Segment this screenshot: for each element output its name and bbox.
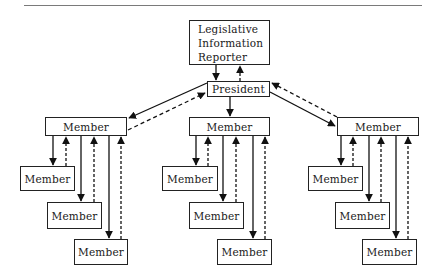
node-left-child-3: Member xyxy=(74,239,128,265)
node-label: Member xyxy=(366,245,412,259)
node-left-child-1: Member xyxy=(20,166,75,191)
node-label: Member xyxy=(24,172,70,186)
edge-right-member-to-president xyxy=(272,83,337,117)
node-label: Member xyxy=(63,120,109,134)
node-left-member: Member xyxy=(45,117,127,136)
node-right-member: Member xyxy=(337,117,419,136)
node-label: Member xyxy=(193,209,239,223)
node-right-child-1: Member xyxy=(308,166,363,191)
node-center-child-1: Member xyxy=(162,166,218,191)
edge-president-to-left-member xyxy=(129,83,207,118)
node-label: Member xyxy=(355,120,401,134)
node-president: President xyxy=(207,81,270,97)
node-label: Member xyxy=(221,245,267,259)
node-center-child-2: Member xyxy=(189,202,244,229)
node-left-child-2: Member xyxy=(47,202,102,229)
node-right-child-2: Member xyxy=(335,202,390,229)
diagram-canvas: Legislative Information Reporter Preside… xyxy=(0,0,438,278)
node-label: Member xyxy=(206,120,252,134)
node-label: Member xyxy=(312,172,358,186)
node-label: Member xyxy=(51,209,97,223)
node-center-child-3: Member xyxy=(217,239,272,265)
node-label-line: Information xyxy=(198,36,263,50)
node-label-line: Legislative xyxy=(198,22,258,36)
node-label: President xyxy=(212,82,265,96)
node-label: Member xyxy=(78,245,124,259)
node-label: Member xyxy=(167,172,213,186)
node-label-line: Reporter xyxy=(198,50,247,64)
node-legislative-information-reporter: Legislative Information Reporter xyxy=(189,20,270,65)
node-label: Member xyxy=(339,209,385,223)
node-center-member: Member xyxy=(189,117,270,136)
edge-president-to-right-member xyxy=(270,92,335,126)
node-right-child-3: Member xyxy=(362,239,417,265)
